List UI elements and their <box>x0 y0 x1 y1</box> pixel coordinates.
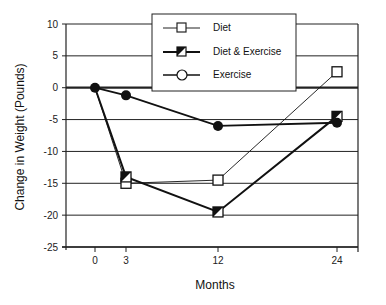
x-tick-label: 12 <box>212 255 224 266</box>
y-tick-label: 0 <box>52 82 58 93</box>
weight-change-chart: 1050-5-10-15-20-25 031224 Change in Weig… <box>0 0 386 305</box>
filled-circle-marker <box>213 121 223 131</box>
filled-circle-marker <box>90 83 100 93</box>
x-tick-label: 3 <box>123 255 129 266</box>
y-tick-label: 5 <box>52 50 58 61</box>
y-axis-title: Change in Weight (Pounds) <box>13 63 27 210</box>
open-square-icon <box>177 23 186 32</box>
series-line <box>95 88 337 212</box>
open-square-marker <box>213 175 223 185</box>
series-line <box>95 88 337 126</box>
x-tick-label: 0 <box>92 255 98 266</box>
legend: Diet Diet & Exercise Exercise <box>152 14 296 91</box>
filled-circle-marker <box>332 118 342 128</box>
x-axis-title: Months <box>195 278 234 292</box>
filled-circle-marker <box>121 90 131 100</box>
y-tick-label: 10 <box>47 19 59 30</box>
x-axis-ticks: 031224 <box>92 247 343 266</box>
y-tick-label: -5 <box>49 114 58 125</box>
y-tick-label: -20 <box>44 210 59 221</box>
open-circle-icon <box>177 70 187 80</box>
open-square-marker <box>332 67 342 77</box>
legend-label-exercise: Exercise <box>213 69 252 80</box>
y-tick-label: -15 <box>44 178 59 189</box>
legend-label-diet-exercise: Diet & Exercise <box>213 46 282 57</box>
legend-item-diet-exercise: Diet & Exercise <box>163 46 282 57</box>
legend-label-diet: Diet <box>213 22 231 33</box>
y-tick-label: -10 <box>44 146 59 157</box>
y-tick-label: -25 <box>44 242 59 253</box>
x-tick-label: 24 <box>331 255 343 266</box>
y-axis-ticks: 1050-5-10-15-20-25 <box>44 19 66 253</box>
